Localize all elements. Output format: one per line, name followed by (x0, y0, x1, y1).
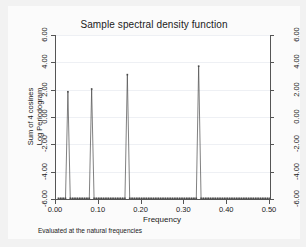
x-tick-label: 0.20 (126, 205, 156, 214)
data-line (58, 66, 270, 198)
y-axis-title-inner: Log Periodogram (35, 57, 44, 177)
y-tick-label: 6.00 (292, 20, 301, 50)
y-tick-mark (270, 144, 274, 145)
y-tick-label: -6.00 (292, 184, 301, 214)
x-tick-label: 0.40 (211, 205, 241, 214)
y-tick-mark (270, 90, 274, 91)
data-point-marker (67, 91, 69, 93)
y-tick-mark (51, 172, 55, 173)
x-tick-mark (141, 200, 142, 204)
y-tick-mark (51, 144, 55, 145)
y-tick-label: 4.00 (292, 47, 301, 77)
y-axis-title-outer: Sum of 4 cosines (26, 57, 35, 177)
x-tick-mark (98, 200, 99, 204)
y-tick-label: -4.00 (292, 156, 301, 186)
y-tick-mark (270, 62, 274, 63)
x-tick-label: 0.30 (168, 205, 198, 214)
y-tick-label: 2.00 (292, 74, 301, 104)
data-point-marker (127, 74, 129, 76)
y-tick-mark (51, 62, 55, 63)
plot-inner (56, 35, 270, 199)
y-tick-mark (51, 90, 55, 91)
page-title: Sample spectral density function (8, 19, 300, 30)
data-point-marker (91, 88, 93, 90)
x-axis-line (55, 199, 271, 200)
y-tick-mark (51, 35, 55, 36)
chart-figure: Sample spectral density function -6.00-4… (0, 0, 306, 247)
x-axis-title: Frequency (55, 215, 269, 224)
chart-note: Evaluated at the natural frequencies (38, 227, 142, 234)
plot-area (55, 35, 271, 199)
data-point-marker (198, 65, 200, 67)
y-tick-label: -2.00 (292, 129, 301, 159)
x-tick-mark (269, 200, 270, 204)
plot-card: Sample spectral density function -6.00-4… (8, 6, 300, 239)
x-tick-mark (226, 200, 227, 204)
x-tick-mark (55, 200, 56, 204)
y-tick-mark (51, 117, 55, 118)
y-tick-label: 6.00 (40, 20, 49, 50)
y-tick-mark (270, 172, 274, 173)
y-tick-mark (270, 117, 274, 118)
x-tick-label: 0.10 (83, 205, 113, 214)
x-tick-mark (183, 200, 184, 204)
x-tick-label: 0.50 (254, 205, 284, 214)
series-periodogram (56, 35, 270, 199)
y-tick-label: 0.00 (292, 102, 301, 132)
x-tick-label: 0.00 (40, 205, 70, 214)
y-tick-mark (270, 199, 274, 200)
y-tick-mark (270, 35, 274, 36)
